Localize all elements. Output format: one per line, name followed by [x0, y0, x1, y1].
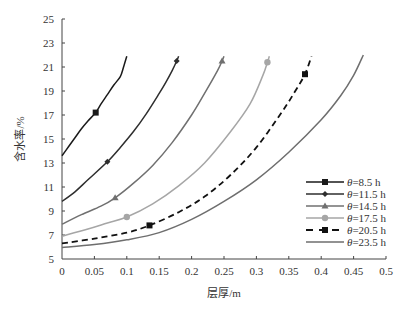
y-tick-label: 19	[43, 85, 55, 97]
legend-label: θ=8.5 h	[347, 176, 381, 188]
x-tick-label: 0.35	[279, 265, 299, 277]
data-point-marker	[302, 71, 308, 77]
data-point-marker	[124, 214, 130, 220]
legend-value: =17.5 h	[352, 212, 386, 224]
moisture-content-chart: 00.050.10.150.20.250.30.350.40.450.55791…	[0, 0, 406, 314]
legend-item: θ=8.5 h	[306, 176, 381, 188]
x-tick-label: 0.05	[85, 265, 105, 277]
series-2	[62, 56, 180, 201]
series-line	[62, 56, 127, 156]
series-line	[62, 56, 224, 224]
series-5	[62, 56, 311, 243]
y-tick-label: 21	[43, 61, 54, 73]
x-axis-title: 层厚/m	[207, 287, 241, 299]
legend-marker	[322, 227, 328, 233]
legend-value: =11.5 h	[352, 188, 386, 200]
legend-label: θ=20.5 h	[347, 224, 387, 236]
legend-label: θ=14.5 h	[347, 200, 387, 212]
y-tick-label: 5	[49, 253, 55, 265]
y-tick-label: 17	[43, 109, 55, 121]
x-tick-label: 0.5	[379, 265, 393, 277]
y-tick-label: 9	[49, 205, 55, 217]
legend-item: θ=23.5 h	[306, 236, 387, 248]
legend: θ=8.5 hθ=11.5 hθ=14.5 hθ=17.5 hθ=20.5 hθ…	[306, 176, 387, 248]
y-tick-label: 13	[43, 157, 55, 169]
legend-value: =14.5 h	[352, 200, 386, 212]
y-tick-label: 25	[43, 13, 55, 25]
data-point-marker	[93, 110, 99, 116]
x-tick-label: 0.25	[214, 265, 234, 277]
y-tick-label: 7	[49, 229, 55, 241]
legend-label: θ=17.5 h	[347, 212, 387, 224]
legend-marker	[322, 179, 328, 185]
legend-value: =23.5 h	[352, 236, 386, 248]
legend-value: =8.5 h	[352, 176, 381, 188]
legend-item: θ=17.5 h	[306, 212, 387, 224]
y-tick-label: 11	[43, 181, 54, 193]
x-tick-label: 0.15	[150, 265, 170, 277]
data-point-marker	[264, 59, 270, 65]
ticks: 00.050.10.150.20.250.30.350.40.450.55791…	[43, 13, 393, 277]
x-tick-label: 0	[59, 265, 65, 277]
x-tick-label: 0.1	[120, 265, 134, 277]
legend-value: =20.5 h	[352, 224, 386, 236]
x-tick-label: 0.2	[185, 265, 199, 277]
data-point-marker	[174, 58, 180, 64]
data-point-marker	[219, 58, 226, 64]
series-line	[62, 56, 311, 243]
data-point-marker	[146, 222, 152, 228]
x-tick-label: 0.45	[344, 265, 364, 277]
legend-marker	[322, 215, 328, 221]
legend-item: θ=14.5 h	[306, 200, 387, 212]
y-axis-title: 含水率/%	[13, 116, 26, 161]
series-1	[62, 56, 127, 156]
y-tick-label: 15	[43, 133, 55, 145]
legend-label: θ=11.5 h	[347, 188, 386, 200]
y-tick-label: 23	[43, 37, 55, 49]
legend-item: θ=11.5 h	[306, 188, 386, 200]
legend-item: θ=20.5 h	[306, 224, 387, 236]
legend-marker	[322, 191, 328, 197]
series-3	[62, 56, 226, 224]
legend-label: θ=23.5 h	[347, 236, 387, 248]
x-tick-label: 0.4	[314, 265, 328, 277]
x-tick-label: 0.3	[250, 265, 264, 277]
